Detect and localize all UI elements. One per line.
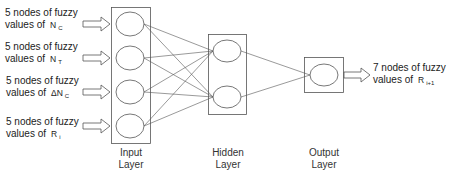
input-arrow-3 [83,85,110,99]
input-layer-label-line1: Input [101,147,161,159]
hidden-layer-label: Hidden Layer [198,147,258,171]
output-layer-label-line2: Layer [294,159,354,171]
variable-symbol: N [50,54,56,64]
variable-symbol: R [51,129,57,139]
variable-subscript: C [58,25,62,31]
variable-subscript: i [59,134,60,140]
input-label-3-line1: 5 nodes of fuzzy [6,75,79,87]
input-label-2-line2: values ofNT [5,53,78,66]
input-label-2: 5 nodes of fuzzy values ofNT [5,41,78,66]
output-label-line1: 7 nodes of fuzzy [373,62,446,74]
label-text: values of [5,53,45,64]
input-layer-box [112,8,151,144]
label-text: values of [6,128,46,139]
input-label-3-line2: values ofΔNC [6,87,79,100]
variable-subscript: C [65,93,69,99]
output-label: 7 nodes of fuzzy values ofRi+1 [373,62,446,87]
output-node [310,64,338,86]
hidden-output-connections [241,51,310,97]
variable-symbol: ΔN [51,88,63,98]
output-layer-label: Output Layer [294,147,354,171]
input-layer-label-line2: Layer [101,159,161,171]
input-label-2-line1: 5 nodes of fuzzy [5,41,78,53]
hidden-layer-label-line1: Hidden [198,147,258,159]
input-label-1-line1: 5 nodes of fuzzy [5,7,78,19]
input-label-3: 5 nodes of fuzzy values ofΔNC [6,75,79,100]
variable-symbol: R [418,75,424,85]
variable-subscript: i+1 [426,80,434,86]
variable-symbol: N [50,20,56,30]
input-layer-label: Input Layer [101,147,161,171]
output-arrow [344,68,370,82]
input-node-3 [116,80,144,104]
output-layer-label-line1: Output [294,147,354,159]
input-arrow-2 [83,51,110,65]
label-text: values of [6,87,46,98]
input-arrow-1 [83,17,110,31]
input-node-1 [116,12,144,36]
input-label-4-line2: values ofRi [6,128,79,141]
input-hidden-connections [144,24,213,126]
input-node-2 [116,46,144,70]
hidden-node-1 [213,40,241,62]
variable-subscript: T [58,59,62,65]
label-text: values of [373,74,413,85]
input-node-4 [116,114,144,138]
input-label-4-line1: 5 nodes of fuzzy [6,116,79,128]
output-label-line2: values ofRi+1 [373,74,446,87]
hidden-node-2 [213,86,241,108]
input-label-1-line2: values ofNC [5,19,78,32]
hidden-layer-label-line2: Layer [198,159,258,171]
label-text: values of [5,19,45,30]
input-label-4: 5 nodes of fuzzy values ofRi [6,116,79,141]
input-arrow-4 [83,119,110,133]
input-label-1: 5 nodes of fuzzy values ofNC [5,7,78,32]
